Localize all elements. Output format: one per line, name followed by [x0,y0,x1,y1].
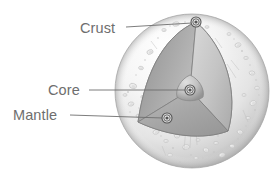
diagram-canvas: Crust Core Mantle [0,0,275,182]
marker-center-dot [194,20,197,23]
interior-cutaway-diagram: Crust Core Mantle [0,0,275,182]
marker-crust [191,17,201,27]
marker-core [185,85,195,95]
label-crust: Crust [80,20,115,36]
marker-mantle [162,113,172,123]
marker-center-dot [188,88,191,91]
label-mantle: Mantle [13,107,57,123]
crater-rim [232,159,236,162]
crater [232,159,236,162]
marker-center-dot [165,116,168,119]
crater-floor [233,160,235,161]
label-core: Core [48,82,80,98]
